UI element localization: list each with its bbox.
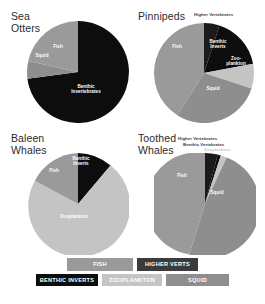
legend-chip-benthic-inverts[interactable]: BENTHIC INVERTS <box>36 274 98 287</box>
chart-title-pinnipeds: Pinnipeds <box>138 11 185 23</box>
legend-chip-squid[interactable]: SQUID <box>166 274 229 287</box>
pie-baleen-whales <box>27 153 129 255</box>
callout-higher-vertebrates: Higher Vertebrates <box>178 136 217 141</box>
pie-toothed-whales <box>154 153 256 255</box>
callout-benthic-vertebrates: Benthic Vertebrates <box>183 142 224 147</box>
pie-sea-otters <box>27 21 129 123</box>
callout-zooplankton: Zooplankton <box>204 147 230 152</box>
chart-panel-baleen-whales: Baleen Whales Benthic Inverts Fish Zoopl… <box>0 128 133 258</box>
pie-svg-pinnipeds <box>154 23 254 123</box>
pie-svg-baleen-whales <box>27 153 129 255</box>
legend: FISH HIGHER VERTS BENTHIC INVERTS ZOOPLA… <box>0 258 265 289</box>
callout-higher-vertebrates: Higher Vertebrates <box>194 12 233 17</box>
legend-chip-zooplankton[interactable]: ZOOPLANKTON <box>102 274 162 287</box>
legend-chip-higher-verts[interactable]: HIGHER VERTS <box>137 258 198 271</box>
legend-chip-fish[interactable]: FISH <box>67 258 133 271</box>
pie-svg-sea-otters <box>27 21 129 123</box>
chart-panel-sea-otters: Sea Otters Benthic Invertebrates Fish Sq… <box>0 0 133 130</box>
pie-svg-toothed-whales <box>154 153 256 255</box>
chart-panel-toothed-whales: Toothed Whales Higher Vertebrates Benthi… <box>132 128 265 258</box>
legend-row-1: FISH HIGHER VERTS <box>0 258 265 271</box>
legend-row-2: BENTHIC INVERTS ZOOPLANKTON SQUID <box>0 274 265 287</box>
pie-pinnipeds <box>154 23 254 123</box>
chart-panel-pinnipeds: Pinnipeds Higher Vertebrates Benthic Inv… <box>132 0 265 130</box>
